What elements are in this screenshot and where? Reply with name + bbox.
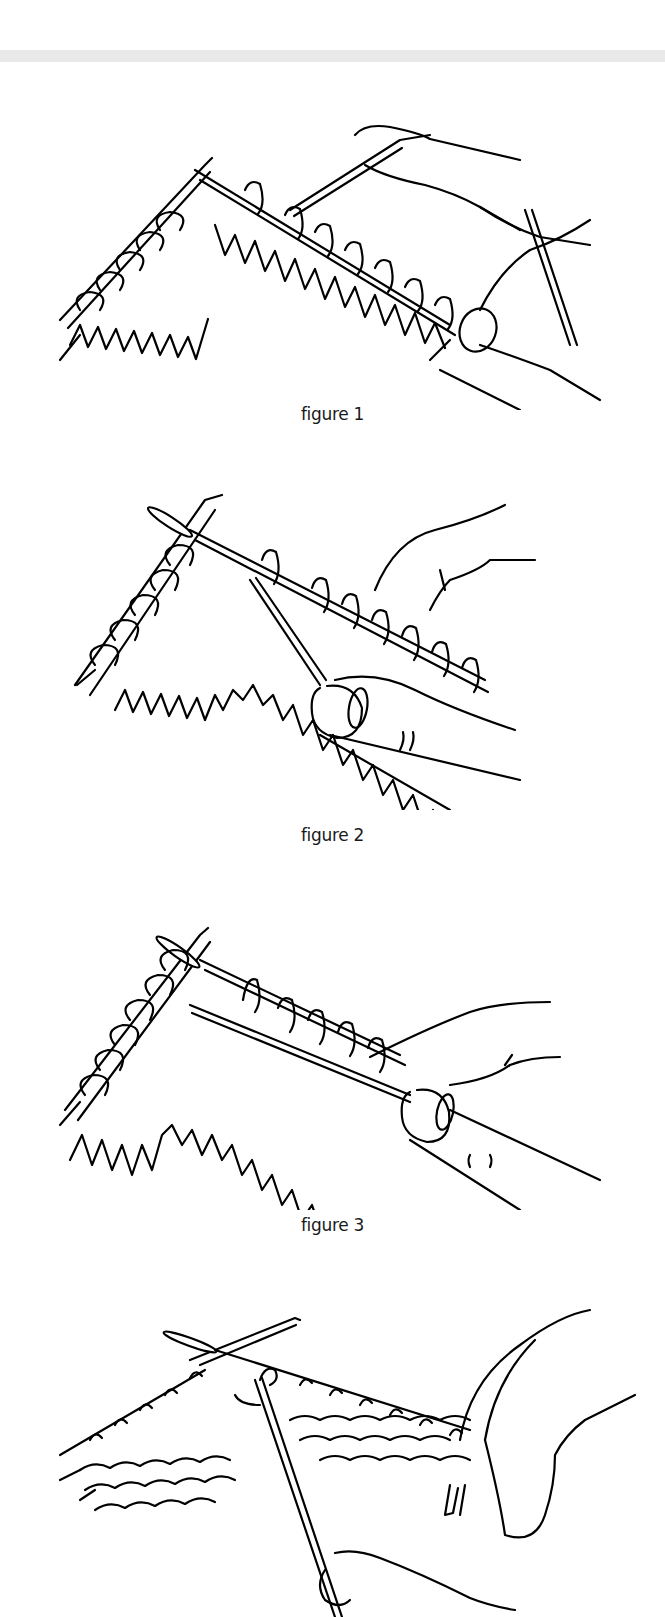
figure-4-illustration <box>0 1270 665 1617</box>
knitting-illustration-2 <box>0 480 665 810</box>
figure-3-caption: figure 3 <box>0 1215 665 1235</box>
knitting-illustration-4 <box>0 1270 665 1617</box>
figure-1-illustration <box>0 110 665 410</box>
knitting-illustration-3 <box>0 880 665 1210</box>
figure-1-caption: figure 1 <box>0 404 665 424</box>
knitting-illustration-1 <box>0 110 665 410</box>
top-separator-band <box>0 50 665 62</box>
figure-3-illustration <box>0 880 665 1210</box>
figure-2-caption: figure 2 <box>0 825 665 845</box>
figure-2-illustration <box>0 480 665 810</box>
